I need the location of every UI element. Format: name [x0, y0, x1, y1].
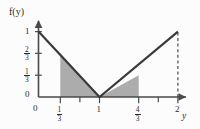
fraction-denominator: 3	[24, 75, 30, 84]
curve-abs-y-minus-1	[39, 32, 178, 97]
fraction-numerator: 4	[135, 106, 141, 114]
fraction-1-3: 1 3	[24, 68, 30, 84]
x-axis-arrow	[179, 93, 187, 101]
fraction-4-3: 4 3	[135, 106, 141, 122]
fraction-denominator: 3	[24, 53, 30, 62]
y-axis-arrow	[35, 20, 43, 28]
fraction-numerator: 1	[57, 106, 63, 114]
fraction-numerator: 1	[24, 68, 30, 76]
y-axis-label: f(y)	[9, 7, 24, 17]
ytick-label-2-3: 2 3	[24, 46, 30, 62]
xtick-label-2: 2	[175, 105, 180, 114]
fraction-1-3: 1 3	[57, 106, 63, 122]
xtick-label-1: 1	[97, 105, 102, 114]
ytick-label-0: 0	[25, 90, 30, 99]
right-shaded-area	[100, 75, 139, 97]
xtick-label-0: 0	[33, 104, 38, 113]
fraction-denominator: 3	[135, 114, 141, 123]
xtick-label-1-3: 1 3	[57, 106, 63, 122]
fraction-denominator: 3	[57, 114, 63, 123]
fraction-2-3: 2 3	[24, 46, 30, 62]
xtick-label-4-3: 4 3	[135, 106, 141, 122]
fraction-numerator: 2	[24, 46, 30, 54]
x-axis-label: y	[182, 112, 186, 122]
figure-container: f(y) y 1 2 3 1 3 0 0 1 3 1 4 3 2	[0, 0, 200, 129]
ytick-label-1: 1	[25, 27, 30, 36]
ytick-label-1-3: 1 3	[24, 68, 30, 84]
